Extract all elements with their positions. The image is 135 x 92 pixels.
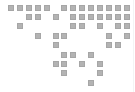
grid-cell xyxy=(53,61,59,67)
grid-cell xyxy=(53,33,59,39)
grid-cell xyxy=(115,14,121,20)
grid-cell xyxy=(79,14,85,20)
grid-cell xyxy=(106,5,112,11)
grid-cell xyxy=(35,33,41,39)
grid-cell xyxy=(26,5,32,11)
grid-cell xyxy=(115,23,121,29)
grid-cell xyxy=(70,5,76,11)
grid-cell xyxy=(61,70,67,76)
grid-cell xyxy=(97,61,103,67)
grid-cell xyxy=(79,23,85,29)
grid-cell xyxy=(88,52,94,58)
grid-cell xyxy=(26,14,32,20)
grid-cell xyxy=(79,61,85,67)
square-grid xyxy=(0,0,135,92)
grid-cell xyxy=(8,5,14,11)
grid-cell xyxy=(35,5,41,11)
grid-cell xyxy=(106,14,112,20)
grid-cell xyxy=(88,5,94,11)
grid-cell xyxy=(61,52,67,58)
edge-line xyxy=(133,0,134,92)
grid-cell xyxy=(115,42,121,48)
grid-cell xyxy=(124,23,130,29)
grid-cell xyxy=(17,5,23,11)
grid-cell xyxy=(70,23,76,29)
grid-cell xyxy=(115,5,121,11)
grid-cell xyxy=(70,52,76,58)
grid-cell xyxy=(17,23,23,29)
grid-cell xyxy=(61,61,67,67)
grid-cell xyxy=(97,5,103,11)
grid-cell xyxy=(97,70,103,76)
grid-cell xyxy=(106,33,112,39)
grid-cell xyxy=(61,33,67,39)
grid-cell xyxy=(53,14,59,20)
grid-cell xyxy=(97,14,103,20)
grid-cell xyxy=(88,14,94,20)
grid-cell xyxy=(124,5,130,11)
grid-cell xyxy=(124,33,130,39)
grid-cell xyxy=(124,14,130,20)
grid-cell xyxy=(44,5,50,11)
grid-cell xyxy=(70,14,76,20)
grid-cell xyxy=(53,42,59,48)
grid-cell xyxy=(61,5,67,11)
grid-cell xyxy=(79,5,85,11)
grid-cell xyxy=(97,23,103,29)
grid-cell xyxy=(88,80,94,86)
grid-cell xyxy=(106,42,112,48)
grid-cell xyxy=(35,14,41,20)
